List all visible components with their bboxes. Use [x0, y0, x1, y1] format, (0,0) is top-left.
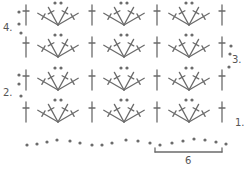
chain-dot	[119, 98, 122, 101]
chain-dot	[125, 33, 128, 36]
chain-dot	[17, 10, 20, 13]
chain-dot	[119, 33, 122, 36]
foundation-chain-dot	[100, 143, 103, 146]
foundation-chain-dot	[136, 139, 139, 142]
foundation-chain-dot	[124, 138, 127, 141]
row-label-4: 4.	[3, 23, 13, 33]
chain-dot	[59, 33, 62, 36]
chain-dot	[59, 66, 62, 69]
foundation-chain-dot	[110, 141, 113, 144]
chain-dot	[17, 22, 20, 25]
row-label-2: 2.	[3, 88, 13, 98]
chain-dot	[119, 66, 122, 69]
chain-dot	[184, 33, 187, 36]
chain-dot	[229, 44, 232, 47]
chain-dot	[19, 94, 22, 97]
chain-dot	[190, 1, 193, 4]
foundation-chain-dot	[192, 137, 195, 140]
foundation-chain-dot	[148, 141, 151, 144]
row-label-1: 1.	[235, 118, 244, 128]
chain-dot	[19, 31, 22, 34]
foundation-chain-dot	[90, 143, 93, 146]
chain-dot	[184, 98, 187, 101]
foundation-chain-dot	[55, 138, 58, 141]
chain-dot	[53, 33, 56, 36]
chain-dot	[59, 1, 62, 4]
chain-dot	[17, 73, 20, 76]
chain-dot	[184, 1, 187, 4]
chain-dot	[125, 1, 128, 4]
chain-dot	[53, 1, 56, 4]
chain-dot	[119, 1, 122, 4]
foundation-chain-dot	[224, 142, 227, 145]
foundation-chain-dot	[78, 141, 81, 144]
foundation-chain-dot	[158, 143, 161, 146]
foundation-chain-dot	[203, 138, 206, 141]
chain-dot	[125, 98, 128, 101]
chain-dot	[17, 82, 20, 85]
foundation-chain-dot	[181, 139, 184, 142]
foundation-chain-dot	[25, 143, 28, 146]
chain-dot	[184, 66, 187, 69]
chain-dot	[190, 33, 193, 36]
foundation-chain-dot	[214, 140, 217, 143]
repeat-label: 6	[185, 156, 191, 166]
foundation-chain-dot	[68, 139, 71, 142]
chain-dot	[53, 66, 56, 69]
foundation-chain-dot	[35, 142, 38, 145]
chain-dot	[190, 98, 193, 101]
chain-dot	[59, 98, 62, 101]
row-label-3: 3.	[232, 55, 242, 65]
chain-dot	[227, 65, 230, 68]
crochet-chart	[0, 0, 244, 173]
chain-dot	[53, 98, 56, 101]
foundation-chain-dot	[170, 141, 173, 144]
chain-dot	[190, 66, 193, 69]
chain-dot	[125, 66, 128, 69]
foundation-chain-dot	[45, 140, 48, 143]
